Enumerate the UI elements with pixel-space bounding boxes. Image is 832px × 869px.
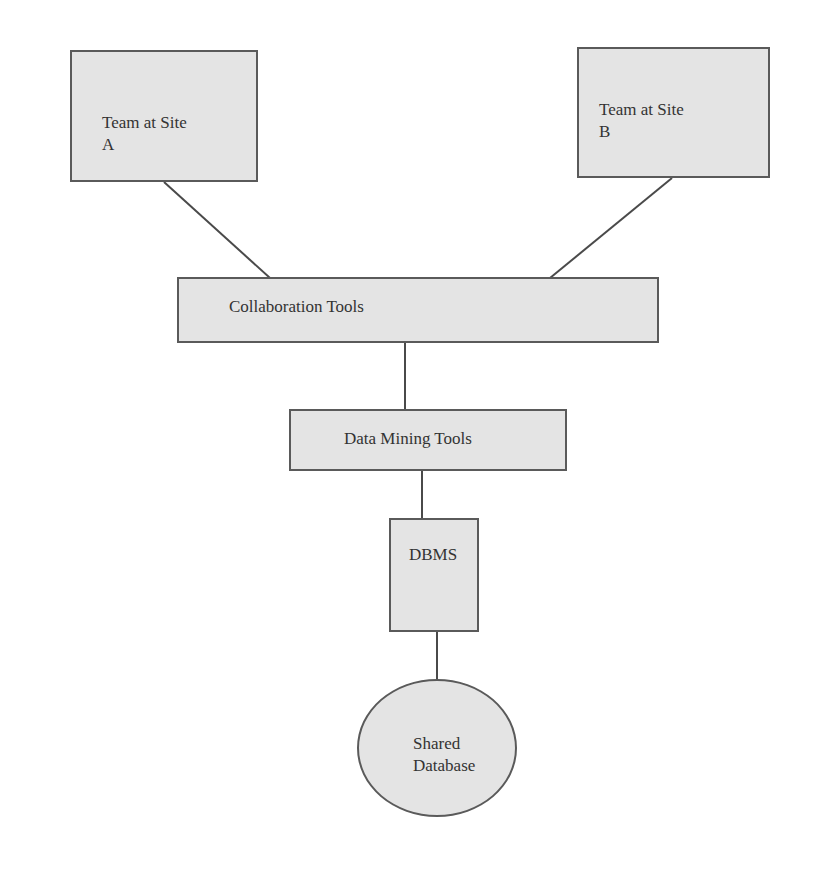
node-team-site-b: Team at Site B (577, 47, 770, 178)
node-data-mining-tools: Data Mining Tools (289, 409, 567, 471)
node-data-mining-tools-label: Data Mining Tools (344, 428, 472, 450)
edge-site-a-to-collaboration (164, 182, 270, 278)
node-shared-database: Shared Database (357, 679, 517, 817)
node-team-site-b-label-line2: B (599, 121, 684, 143)
edge-site-b-to-collaboration (550, 178, 672, 278)
diagram-canvas: Team at Site A Team at Site B Collaborat… (0, 0, 832, 869)
node-shared-database-label-line1: Shared (413, 733, 475, 755)
node-shared-database-label-line2: Database (413, 755, 475, 777)
node-team-site-a: Team at Site A (70, 50, 258, 182)
node-team-site-b-label-line1: Team at Site (599, 99, 684, 121)
node-dbms: DBMS (389, 518, 479, 632)
node-team-site-a-label-line1: Team at Site (102, 112, 187, 134)
node-collaboration-tools: Collaboration Tools (177, 277, 659, 343)
node-team-site-a-label-line2: A (102, 134, 187, 156)
node-collaboration-tools-label: Collaboration Tools (229, 296, 364, 318)
node-dbms-label: DBMS (409, 544, 457, 566)
